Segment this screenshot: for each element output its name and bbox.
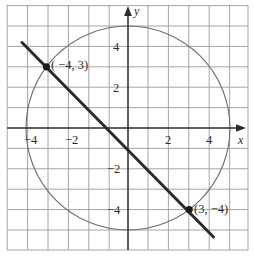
- point-label-minus4-3: ( −4, 3): [51, 59, 88, 72]
- graph-figure: −4 −2 2 4 4 2 −2 −4 x y ( −4, 3) (3, −4): [0, 0, 254, 259]
- y-tick-label-minus4: −4: [107, 204, 120, 217]
- x-tick-label-minus4: −4: [24, 134, 37, 147]
- x-tick-label-4: 4: [206, 134, 212, 147]
- y-axis-label: y: [134, 5, 139, 17]
- y-tick-label-minus2: −2: [107, 163, 120, 176]
- y-tick-label-2: 2: [113, 82, 119, 95]
- point-marker-minus4-3: [43, 63, 50, 70]
- y-tick-label-4: 4: [113, 41, 119, 54]
- coordinate-plane: [0, 0, 254, 259]
- point-marker-3-minus4: [186, 206, 193, 213]
- point-label-3-minus4: (3, −4): [194, 203, 228, 216]
- x-axis-label: x: [238, 134, 243, 146]
- x-tick-label-minus2: −2: [65, 134, 78, 147]
- x-tick-label-2: 2: [165, 134, 171, 147]
- x-axis: [7, 124, 246, 132]
